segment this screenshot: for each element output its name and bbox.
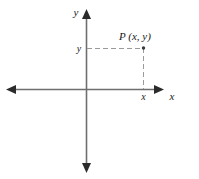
x-axis-right-arrowhead — [154, 85, 164, 94]
y-axis-top-arrowhead — [82, 9, 91, 19]
point-dot — [142, 46, 145, 49]
x-axis-label: x — [169, 90, 175, 102]
y-tick-label: y — [76, 43, 82, 54]
x-tick-label: x — [140, 91, 146, 102]
y-axis-bottom-arrowhead — [82, 163, 91, 173]
x-axis-left-arrowhead — [6, 85, 16, 94]
y-axis-label: y — [73, 6, 79, 18]
coordinate-plane-diagram: y x y x P (x, y) — [0, 0, 199, 179]
y-axis — [82, 9, 91, 173]
point-label: P (x, y) — [118, 30, 151, 43]
